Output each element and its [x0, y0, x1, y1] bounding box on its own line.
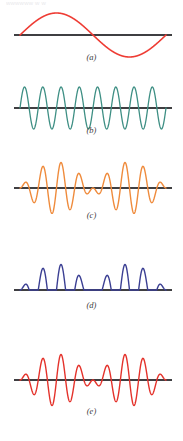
- panel-e-label: (e): [0, 406, 183, 416]
- panel-e: (e): [0, 346, 183, 410]
- panel-b: (b): [0, 74, 183, 130]
- signal-modulation-figure: wwwwww w w (a) (b) (c) (d) (e): [0, 0, 183, 441]
- panel-d: (d): [0, 256, 183, 296]
- panel-b-label: (b): [0, 125, 183, 135]
- panel-b-waveform: [0, 74, 183, 130]
- panel-c-label: (c): [0, 210, 183, 220]
- panel-a-plot: [0, 0, 183, 58]
- panel-a: (a): [0, 0, 183, 58]
- panel-e-waveform: [0, 346, 183, 410]
- panel-a-waveform: [0, 0, 183, 58]
- panel-d-curve: [20, 265, 166, 291]
- panel-d-waveform: [0, 256, 183, 296]
- panel-e-plot: [0, 346, 183, 410]
- panel-d-label: (d): [0, 300, 183, 310]
- panel-d-plot: [0, 256, 183, 296]
- panel-c-plot: [0, 152, 183, 214]
- panel-b-plot: [0, 74, 183, 130]
- panel-c: (c): [0, 152, 183, 214]
- panel-c-waveform: [0, 152, 183, 214]
- panel-a-label: (a): [0, 52, 183, 62]
